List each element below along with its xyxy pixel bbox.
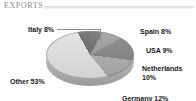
slice-label-netherlands: Netherlands 10%: [142, 65, 186, 82]
chart-stage: Italy 8% Spain 8% USA 9% Netherlands 10%…: [0, 12, 196, 101]
slice-label-usa: USA 9%: [146, 47, 173, 56]
slice-label-italy: Italy 8%: [28, 26, 54, 35]
leader-line-vertical: [100, 29, 101, 41]
slice-label-other: Other 53%: [10, 78, 45, 87]
header-divider-rule: [44, 6, 194, 9]
slice-label-germany: Germany 12%: [122, 95, 168, 101]
leader-line-horizontal: [57, 29, 101, 30]
exports-pie-chart-figure: EXPORTS Italy 8% Spain 8% USA 9% Netherl…: [0, 0, 196, 101]
italy-leader-line: [57, 29, 101, 41]
figure-title: EXPORTS: [4, 1, 43, 11]
slice-label-spain: Spain 8%: [140, 28, 171, 37]
